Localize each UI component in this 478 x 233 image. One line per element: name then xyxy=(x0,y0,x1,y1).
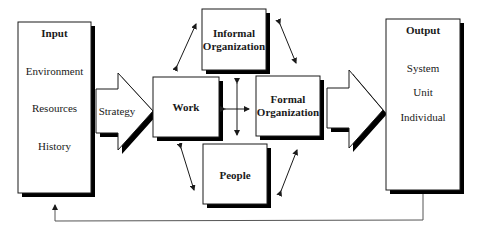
arrow-informal-formal xyxy=(280,24,296,63)
input-item-resources: Resources xyxy=(18,102,91,115)
input-title: Input xyxy=(18,27,91,40)
arrow-work-people xyxy=(181,148,194,190)
formal-organization-line2: Organization xyxy=(254,106,322,119)
arrow-people-formal xyxy=(281,150,297,191)
output-title: Output xyxy=(386,24,460,37)
work-label: Work xyxy=(153,101,219,114)
arrow-work-informal xyxy=(177,24,196,66)
output-arrow xyxy=(327,70,387,152)
people-label: People xyxy=(203,169,267,182)
output-box xyxy=(386,19,464,194)
output-item-unit: Unit xyxy=(386,86,460,99)
input-item-history: History xyxy=(18,140,91,153)
informal-organization-line1: Informal xyxy=(202,27,266,40)
informal-organization-line2: Organization xyxy=(200,40,268,53)
output-item-system: System xyxy=(386,62,460,75)
input-item-environment: Environment xyxy=(18,65,91,78)
formal-organization-line1: Formal xyxy=(256,93,320,106)
strategy-label: Strategy xyxy=(95,105,139,118)
output-item-individual: Individual xyxy=(386,111,460,124)
